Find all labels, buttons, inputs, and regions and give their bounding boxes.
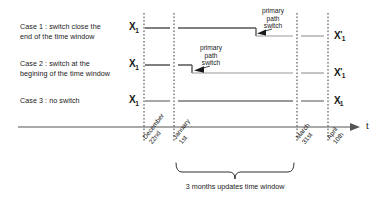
time-window-caption: 3 months updates time window <box>175 182 295 191</box>
diagram-canvas: Case 1 : switch close the end of the tim… <box>0 0 387 202</box>
case-3-description: Case 3 : no switch <box>20 96 138 106</box>
case-1-end-subscript: 1 <box>342 35 346 42</box>
axis-name-t: t <box>366 120 369 131</box>
case-2-start-subscript: 1 <box>135 64 139 71</box>
case-1-start-subscript: 1 <box>135 27 139 34</box>
case-2-switch-arrow <box>194 66 210 73</box>
case-2-start-value: X1 <box>129 58 139 71</box>
case-3-end-subscript: 1 <box>340 100 344 107</box>
case-2-end-value: X'1 <box>334 66 345 79</box>
case-3-end-value: X1 <box>334 94 343 107</box>
case-3-start-subscript: 1 <box>135 100 139 107</box>
case-1-switch-annotation: primary path switch <box>252 7 294 30</box>
case-2-end-subscript: 1 <box>342 72 346 79</box>
case-1-description: Case 1 : switch close the end of the tim… <box>20 22 138 41</box>
case-3-start-value: X1 <box>129 94 139 107</box>
case-1-end-value: X'1 <box>334 29 345 42</box>
case-1-switch-arrow <box>257 29 272 36</box>
case-2-description: Case 2 : switch at the begining of the t… <box>20 59 138 78</box>
case-1-start-value: X1 <box>129 21 139 34</box>
case-2-switch-annotation: primary path switch <box>190 44 232 67</box>
time-window-brace <box>176 163 294 179</box>
